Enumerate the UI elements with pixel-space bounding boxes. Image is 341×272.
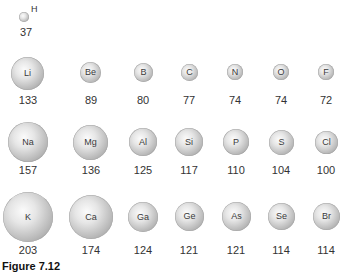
atom-symbol: Ga [137, 213, 149, 222]
atom-symbol: Na [22, 138, 34, 147]
atom-sphere-ge: Ge [175, 202, 204, 231]
atom-radius: 114 [261, 244, 301, 256]
atom-sphere-al: Al [129, 128, 157, 156]
atom-sphere-br: Br [313, 203, 340, 230]
atom-sphere-s: S [269, 130, 294, 155]
figure-caption: Figure 7.12 [2, 260, 60, 272]
atom-sphere-mg: Mg [73, 125, 108, 160]
atom-symbol: Se [276, 212, 287, 221]
atom-radius: 117 [169, 164, 209, 176]
atom-symbol-h: H [31, 4, 38, 14]
atom-sphere-ga: Ga [128, 202, 158, 232]
atom-symbol: As [231, 212, 242, 221]
atom-symbol: N [232, 68, 239, 77]
atom-radius: 136 [71, 164, 111, 176]
atom-symbol: Si [185, 138, 193, 147]
atom-sphere-na: Na [8, 122, 48, 162]
atom-radius: 72 [306, 94, 341, 106]
atom-sphere-o: O [273, 64, 289, 80]
atom-symbol: Ca [85, 213, 97, 222]
atom-sphere-ca: Ca [69, 195, 113, 239]
atom-symbol: Cl [322, 138, 331, 147]
atom-sphere-p: P [223, 129, 249, 155]
atom-symbol: Ge [183, 212, 195, 221]
atom-sphere-li: Li [11, 57, 44, 90]
atom-sphere-be: Be [80, 62, 101, 83]
atom-radius: 104 [261, 164, 301, 176]
atom-symbol: Br [322, 212, 331, 221]
atom-radius: 89 [71, 94, 111, 106]
atom-sphere-h [19, 12, 29, 22]
atom-radius: 121 [169, 244, 209, 256]
atom-radius: 174 [71, 244, 111, 256]
atom-symbol: Mg [84, 138, 97, 147]
atom-radius: 133 [8, 94, 48, 106]
atom-symbol: F [323, 68, 329, 77]
atom-sphere-b: B [134, 63, 153, 82]
atom-symbol: Al [139, 138, 147, 147]
atom-sphere-si: Si [175, 128, 203, 156]
atom-radius: 121 [216, 244, 256, 256]
atom-radius: 77 [169, 94, 209, 106]
atom-radius-h: 37 [6, 26, 46, 38]
atom-radius: 157 [8, 164, 48, 176]
atom-symbol: P [233, 138, 239, 147]
atom-sphere-f: F [318, 64, 334, 80]
atom-symbol: C [186, 68, 193, 77]
atom-sphere-cl: Cl [315, 131, 338, 154]
atom-symbol: Be [85, 68, 96, 77]
atom-radius: 125 [123, 164, 163, 176]
atom-sphere-k: K [3, 192, 53, 242]
atom-radius: 203 [8, 244, 48, 256]
atom-symbol: S [278, 138, 284, 147]
atom-radius: 114 [306, 244, 341, 256]
atom-radius: 80 [123, 94, 163, 106]
atom-radius: 74 [215, 94, 255, 106]
atom-sphere-n: N [227, 64, 243, 80]
atom-radius: 110 [216, 164, 256, 176]
atom-radius: 100 [306, 164, 341, 176]
atom-radius: 124 [123, 244, 163, 256]
atom-sphere-c: C [181, 64, 198, 81]
atom-symbol: B [140, 68, 146, 77]
atom-symbol: K [25, 213, 31, 222]
atom-radius: 74 [261, 94, 301, 106]
atom-sphere-se: Se [268, 203, 295, 230]
atom-symbol: O [277, 68, 284, 77]
atom-symbol: Li [24, 69, 31, 78]
atom-sphere-as: As [222, 202, 251, 231]
